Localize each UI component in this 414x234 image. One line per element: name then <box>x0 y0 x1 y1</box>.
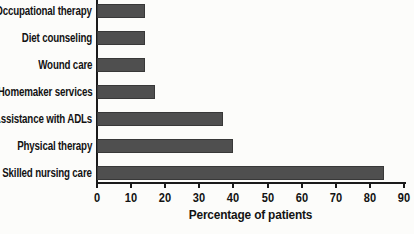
x-tick-label: 20 <box>159 190 171 205</box>
bar <box>97 4 145 18</box>
plot-area: 0102030405060708090 <box>97 0 404 184</box>
x-tick-mark <box>198 184 200 188</box>
category-label: Wound care <box>38 52 92 79</box>
category-labels-column: Occupational therapyDiet counselingWound… <box>0 0 92 184</box>
category-label: Diet counseling <box>22 25 92 52</box>
x-tick-label: 70 <box>330 190 342 205</box>
bar <box>97 166 384 180</box>
bar <box>97 31 145 45</box>
x-tick-label: 80 <box>364 190 376 205</box>
x-axis-title: Percentage of patients <box>115 207 385 222</box>
x-tick-mark <box>369 184 371 188</box>
x-tick-label: 60 <box>296 190 308 205</box>
bar <box>97 58 145 72</box>
x-tick-mark <box>403 184 405 188</box>
category-label: Homemaker services <box>0 79 92 106</box>
x-tick-mark <box>267 184 269 188</box>
x-tick-label: 90 <box>398 190 410 205</box>
category-label: Occupational therapy <box>0 0 92 25</box>
x-tick-mark <box>335 184 337 188</box>
x-tick-mark <box>130 184 132 188</box>
bar <box>97 85 155 99</box>
x-tick-mark <box>232 184 234 188</box>
x-tick-mark <box>164 184 166 188</box>
bar-chart-figure: Occupational therapyDiet counselingWound… <box>0 0 414 234</box>
category-label: Physical therapy <box>17 133 92 160</box>
x-tick-mark <box>301 184 303 188</box>
x-tick-mark <box>96 184 98 188</box>
bar <box>97 139 233 153</box>
bar <box>97 112 223 126</box>
category-label: Skilled nursing care <box>2 160 92 187</box>
category-label: Assistance with ADLs <box>0 106 92 133</box>
x-tick-label: 40 <box>227 190 239 205</box>
x-tick-label: 50 <box>261 190 273 205</box>
x-tick-label: 0 <box>94 190 100 205</box>
x-tick-label: 30 <box>193 190 205 205</box>
x-tick-label: 10 <box>125 190 137 205</box>
